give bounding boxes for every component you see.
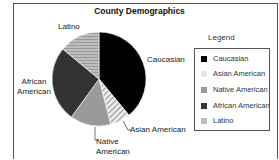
legend-item-african-american: African American <box>201 101 270 110</box>
swatch-icon <box>201 56 207 62</box>
label-latino: Latino <box>58 22 80 32</box>
swatch-icon <box>201 87 207 93</box>
legend: Caucasian Asian American Native American… <box>194 48 270 131</box>
legend-item-native-american: Native American <box>201 85 268 94</box>
legend-item-caucasian: Caucasian <box>201 54 248 63</box>
legend-item-asian-american: Asian American <box>201 69 265 78</box>
legend-item-latino: Latino <box>201 116 233 125</box>
legend-title: Legend <box>208 33 235 42</box>
swatch-icon <box>201 71 207 77</box>
label-native-american: NativeAmerican <box>96 137 134 157</box>
label-african-american: AfricanAmerican <box>15 77 53 97</box>
swatch-icon <box>201 103 207 109</box>
swatch-icon <box>201 118 207 124</box>
label-asian-american: Asian American <box>130 125 186 135</box>
asian-leader-line <box>123 121 128 130</box>
label-caucasian: Caucasian <box>147 55 185 65</box>
